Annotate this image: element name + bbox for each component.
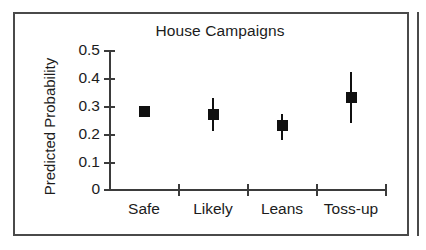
data-marker-tossup xyxy=(346,92,357,103)
y-tick-label: 0.1 xyxy=(54,154,100,170)
x-tick-mark xyxy=(178,184,180,196)
y-tick-mark xyxy=(104,134,115,136)
data-marker-likely xyxy=(208,109,219,120)
x-tick-mark xyxy=(385,184,387,196)
y-tick-label: 0.3 xyxy=(54,98,100,114)
y-tick-mark xyxy=(104,106,115,108)
plot-area: 0.5 0.4 0.3 0.2 0.1 0 Safe Likely Leans … xyxy=(0,0,426,250)
y-tick-label: 0.4 xyxy=(54,70,100,86)
y-tick-mark xyxy=(104,78,115,80)
x-tick-label-tossup: Toss-up xyxy=(306,200,396,218)
data-marker-leans xyxy=(277,120,288,131)
y-tick-label: 0.2 xyxy=(54,126,100,142)
y-tick-mark xyxy=(104,162,115,164)
figure-page: House Campaigns Predicted Probability 0.… xyxy=(0,0,426,250)
x-tick-mark xyxy=(247,184,249,196)
y-tick-label: 0 xyxy=(54,181,100,197)
y-tick-label: 0.5 xyxy=(54,42,100,58)
x-tick-mark xyxy=(316,184,318,196)
data-marker-safe xyxy=(139,106,150,117)
y-tick-mark xyxy=(104,189,115,191)
y-axis-line xyxy=(109,50,111,191)
y-tick-mark xyxy=(104,50,115,52)
